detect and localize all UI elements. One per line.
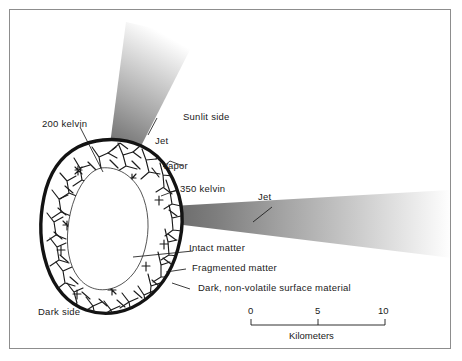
scale-bar-graphic bbox=[251, 319, 385, 325]
label-dark-surface: Dark, non-volatile surface material bbox=[198, 283, 351, 293]
label-350-kelvin: 350 kelvin bbox=[180, 184, 225, 194]
comet-nucleus-body bbox=[41, 140, 182, 320]
scale-tick-label-0: 0 bbox=[248, 306, 253, 316]
label-200-kelvin: 200 kelvin bbox=[42, 119, 87, 129]
jet-top-shape bbox=[109, 22, 196, 152]
comet-nucleus-figure: 200 kelvin Sunlit side Jet Vapor 350 kel… bbox=[0, 0, 462, 361]
label-jet-right: Jet bbox=[258, 192, 271, 202]
scale-tick-label-10: 10 bbox=[378, 306, 389, 316]
label-fragmented-matter: Fragmented matter bbox=[192, 263, 277, 273]
scale-bar-caption: Kilometers bbox=[289, 331, 334, 341]
scale-tick-label-5: 5 bbox=[315, 306, 320, 316]
label-vapor: Vapor bbox=[162, 161, 188, 171]
label-intact-matter: Intact matter bbox=[189, 243, 245, 253]
label-jet-top: Jet bbox=[155, 136, 168, 146]
leader-dark-surface bbox=[172, 283, 190, 289]
label-dark-side: Dark side bbox=[38, 307, 80, 317]
label-sunlit-side: Sunlit side bbox=[183, 112, 230, 122]
